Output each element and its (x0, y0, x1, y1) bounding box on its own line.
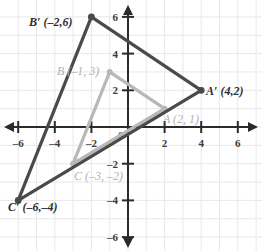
label-A: A (2, 1) (162, 112, 199, 126)
y-tick-label: 2 (113, 84, 119, 96)
y-tick-label: 6 (113, 11, 119, 23)
vertex-point-B-prime (88, 14, 95, 21)
y-tick-label: –4 (106, 194, 119, 206)
x-tick-label: –4 (48, 137, 61, 149)
y-tick-label: 4 (113, 48, 119, 60)
label-B: B (–1, 3) (57, 64, 99, 78)
x-tick-label: –2 (85, 137, 98, 149)
label-B-prime: B′ (–2,6) (28, 15, 72, 29)
label-A-prime: A′ (4,2) (205, 84, 243, 98)
label-C-prime: C′ (–6,–4) (8, 200, 57, 214)
y-tick-label: –2 (106, 158, 119, 170)
y-tick-label: –6 (106, 231, 119, 243)
coordinate-plane-figure: –6–4–2246642–2–4–6 0 B′ (–2,6)A′ (4,2)C′… (0, 0, 262, 251)
label-C: C (–3, –2) (74, 169, 123, 183)
vertex-point-A-prime (198, 87, 205, 94)
graph-canvas: –6–4–2246642–2–4–6 0 B′ (–2,6)A′ (4,2)C′… (0, 0, 262, 251)
x-tick-label: –6 (12, 137, 25, 149)
x-tick-label: 2 (162, 137, 168, 149)
vertex-point-B (107, 69, 113, 75)
x-tick-label: 6 (235, 137, 241, 149)
x-tick-label: 4 (198, 137, 204, 149)
